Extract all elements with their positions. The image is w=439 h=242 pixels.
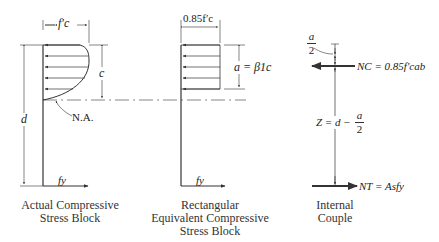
- lever-a-denominator: 2: [357, 123, 363, 135]
- label-lever-arm: Z = d −: [315, 116, 352, 129]
- caption-rect-line3: Stress Block: [140, 225, 280, 238]
- caption-rectangular: Rectangular Equivalent Compressive Stres…: [140, 199, 280, 238]
- actual-stress-block: [20, 20, 108, 186]
- half-a-denominator: 2: [309, 44, 315, 56]
- internal-couple: [312, 44, 357, 186]
- label-nt: NT = Asfy: [359, 180, 404, 193]
- label-fy-1: fy: [58, 174, 66, 187]
- label-fy-2: fy: [196, 174, 204, 187]
- label-a-beta1c: a = β1c: [233, 61, 272, 74]
- label-085fc-width: 0.85f′c: [183, 12, 213, 25]
- caption-couple-line2: Couple: [300, 212, 370, 225]
- label-fc-width: f′c: [58, 17, 69, 30]
- label-half-a: a 2: [307, 31, 316, 56]
- lever-arm-text: Z = d −: [316, 116, 351, 128]
- lever-a-numerator: a: [357, 109, 363, 121]
- caption-actual: Actual Compressive Stress Block: [10, 199, 130, 225]
- label-nc: NC = 0.85f′cab: [357, 60, 425, 73]
- label-d: d: [20, 113, 28, 126]
- rectangular-stress-block: [181, 20, 245, 186]
- half-a-numerator: a: [309, 30, 315, 42]
- label-neutral-axis: N.A.: [72, 111, 93, 124]
- label-c: c: [98, 67, 105, 80]
- label-lever-half-a: a 2: [355, 110, 364, 135]
- caption-couple: Internal Couple: [300, 199, 370, 225]
- caption-actual-line2: Stress Block: [10, 212, 130, 225]
